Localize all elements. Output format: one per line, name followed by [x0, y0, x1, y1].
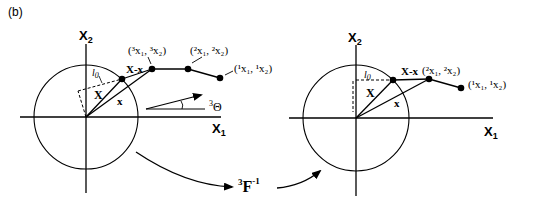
right-node-material-point — [390, 77, 397, 84]
transform-arrow-in — [136, 152, 232, 187]
right-X-label: X — [366, 86, 375, 100]
left-theta-label: 3Θ — [209, 99, 222, 114]
transform-label: 3F-1 — [238, 176, 260, 195]
right-node-1-label: (¹x₁, ¹x₂) — [468, 78, 506, 91]
left-node-3 — [149, 66, 156, 73]
transform-arrow-out — [277, 171, 320, 188]
diagram-canvas: (b) X2 X1 (³x₁, ³x₂) (²x₁, ²x₂) — [0, 0, 533, 202]
left-node-1-label: (¹x₁, ¹x₂) — [234, 62, 272, 75]
left-node-2-leader — [192, 57, 202, 63]
right-l0-label: l0 — [364, 69, 371, 82]
right-x1-axis-label: X1 — [484, 124, 498, 141]
right-x-label: x — [394, 97, 400, 109]
left-node-1 — [217, 75, 224, 82]
right-node-2 — [426, 76, 433, 83]
left-node-2 — [185, 66, 192, 73]
left-l0-leader — [99, 76, 102, 83]
transform-mapping: 3F-1 — [136, 152, 320, 195]
left-chain-segment-2-1 — [188, 69, 220, 78]
right-vector-X-minus-x — [393, 79, 429, 80]
left-x2-axis-label: X2 — [79, 28, 93, 45]
right-node-1 — [458, 85, 465, 92]
left-node-1-leader — [225, 71, 233, 75]
left-diagram: X2 X1 (³x₁, ³x₂) (²x₁, ²x₂) (¹x₁, ¹x₂) X… — [20, 28, 272, 193]
left-X-minus-x-label: X-x — [126, 63, 144, 75]
panel-label: (b) — [8, 5, 23, 19]
left-node-3-leader — [148, 57, 151, 64]
right-x2-axis-label: X2 — [348, 30, 362, 47]
left-theta-arc — [181, 101, 183, 109]
left-node-2-label: (²x₁, ²x₂) — [190, 44, 228, 57]
right-diagram: X2 X1 X-x (²x₁, ²x₂) (¹x₁, ¹x₂) X x l0 — [289, 30, 506, 196]
left-l0-label: l0 — [92, 67, 99, 80]
right-node-2-label: (²x₁, ²x₂) — [422, 64, 460, 77]
right-chain-segment-2-1 — [429, 79, 461, 88]
left-X-label: X — [94, 88, 103, 102]
left-theta-arrow — [146, 95, 201, 109]
left-node-material-point — [119, 76, 126, 83]
left-dashed-vertical — [78, 91, 86, 117]
left-x-label: x — [117, 95, 123, 107]
right-X-minus-x-label: X-x — [401, 65, 419, 77]
left-x1-axis-label: X1 — [212, 121, 226, 138]
left-node-3-label: (³x₁, ³x₂) — [128, 44, 166, 57]
